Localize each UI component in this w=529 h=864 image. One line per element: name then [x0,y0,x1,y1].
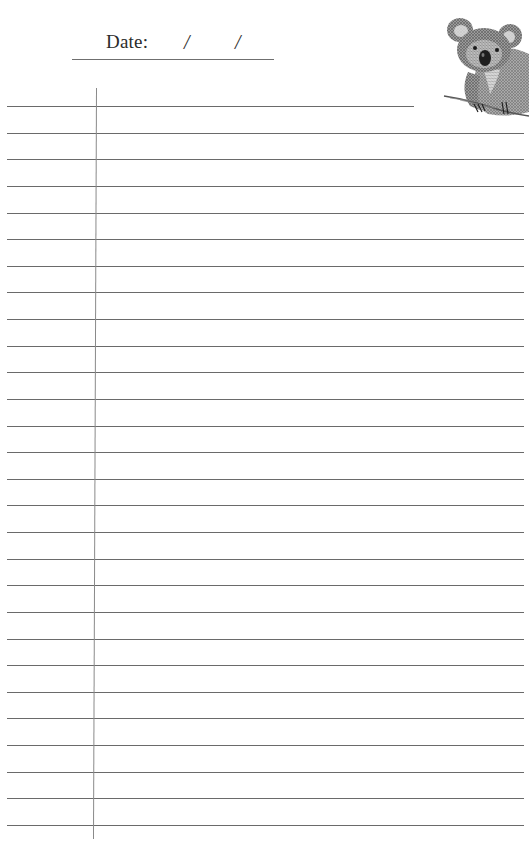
ruled-line[interactable] [7,452,524,453]
date-label: Date: [106,31,148,53]
koala-illustration-icon [440,14,529,120]
ruled-line[interactable] [7,745,524,746]
ruled-line[interactable] [7,825,524,826]
date-separator-day: / [235,31,241,54]
ruled-line[interactable] [7,372,524,373]
ruled-line[interactable] [7,532,524,533]
date-separator-month: / [184,31,190,54]
ruled-line[interactable] [7,266,524,267]
ruled-line[interactable] [7,186,524,187]
ruled-line[interactable] [7,692,524,693]
ruled-line[interactable] [7,133,524,134]
ruled-line[interactable] [7,718,524,719]
ruled-line[interactable] [7,159,524,160]
ruled-line[interactable] [7,239,524,240]
notebook-page: Date: / / [0,0,529,864]
ruled-line[interactable] [7,639,524,640]
ruled-line[interactable] [7,772,524,773]
ruled-line[interactable] [7,798,524,799]
ruled-line[interactable] [7,292,524,293]
ruled-line[interactable] [7,106,414,107]
ruled-line[interactable] [7,585,524,586]
ruled-line[interactable] [7,559,524,560]
ruled-line[interactable] [7,505,524,506]
date-field-underline[interactable] [72,59,274,60]
ruled-line[interactable] [7,612,524,613]
ruled-line[interactable] [7,665,524,666]
ruled-line[interactable] [7,479,524,480]
ruled-line[interactable] [7,319,524,320]
margin-line [93,88,97,839]
ruled-line[interactable] [7,426,524,427]
ruled-line[interactable] [7,213,524,214]
ruled-line[interactable] [7,346,524,347]
ruled-line[interactable] [7,399,524,400]
